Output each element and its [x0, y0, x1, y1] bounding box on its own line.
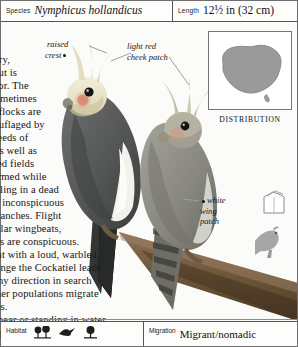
length-value: 12½ in (32 cm) — [203, 4, 274, 16]
tasmania — [264, 94, 270, 102]
annotation-cheek-patch: light red cheek patch — [127, 41, 168, 62]
footer-divider — [1, 319, 297, 320]
footer-bar: Habitat — [1, 321, 297, 346]
annotation-cheek-text: light red cheek patch — [127, 41, 168, 62]
habitat-field: Habitat — [1, 322, 144, 346]
habitat-icon-group — [34, 325, 98, 343]
migration-label: Migration — [149, 327, 176, 334]
description-text: untry, o but is avior. The , sometimes a… — [0, 53, 160, 339]
species-label: Species — [6, 7, 31, 14]
annotation-raised-crest: raised crest — [45, 39, 68, 60]
arid-flight-icon — [58, 325, 76, 343]
distribution-map — [208, 31, 292, 110]
species-value: Nymphicus hollandicus — [35, 4, 143, 16]
migration-field: Migration Migrant/nomadic — [144, 322, 297, 346]
species-field: Species Nymphicus hollandicus — [1, 1, 173, 21]
perched-bird-silhouette-icon — [253, 225, 289, 263]
length-field: Length 12½ in (32 cm) — [173, 1, 297, 21]
australia-map-svg — [209, 32, 291, 109]
header-bar: Species Nymphicus hollandicus Length 12½… — [1, 1, 297, 22]
migration-value: Migrant/nomadic — [180, 328, 256, 340]
habitat-label: Habitat — [6, 327, 27, 334]
annotation-dot — [202, 200, 205, 203]
annotation-wing-patch: white wing patch — [200, 195, 226, 227]
shrubland-icon — [34, 325, 51, 343]
australia-landmass — [223, 45, 281, 93]
distribution-label: DISTRIBUTION — [208, 115, 292, 124]
woodland-tree-icon — [83, 325, 98, 343]
field-guide-page: Species Nymphicus hollandicus Length 12½… — [0, 0, 298, 347]
nest-box-icon — [259, 189, 289, 219]
annotation-dot — [63, 54, 66, 57]
length-label: Length — [178, 7, 199, 14]
